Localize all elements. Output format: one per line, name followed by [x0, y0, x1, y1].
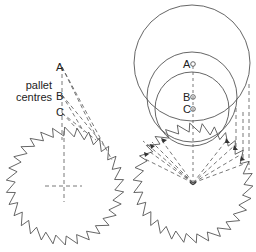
right-label-a: A	[183, 59, 190, 70]
escapement-diagram	[0, 0, 256, 252]
left-wheel-centre-cross	[45, 131, 82, 202]
left-label-c: C	[56, 107, 64, 118]
right-radial-lines	[143, 138, 244, 183]
left-escape-wheel	[6, 127, 123, 245]
left-pallet-lines	[62, 67, 112, 160]
right-label-c: C	[183, 104, 191, 115]
pallet-centres-caption: pallet centres	[8, 79, 52, 103]
left-label-b: B	[56, 91, 63, 102]
caption-line-2: centres	[8, 91, 52, 103]
left-label-a: A	[56, 62, 63, 73]
caption-line-1: pallet	[8, 79, 52, 91]
right-label-b: B	[183, 92, 190, 103]
centre-a-marker	[191, 62, 196, 67]
